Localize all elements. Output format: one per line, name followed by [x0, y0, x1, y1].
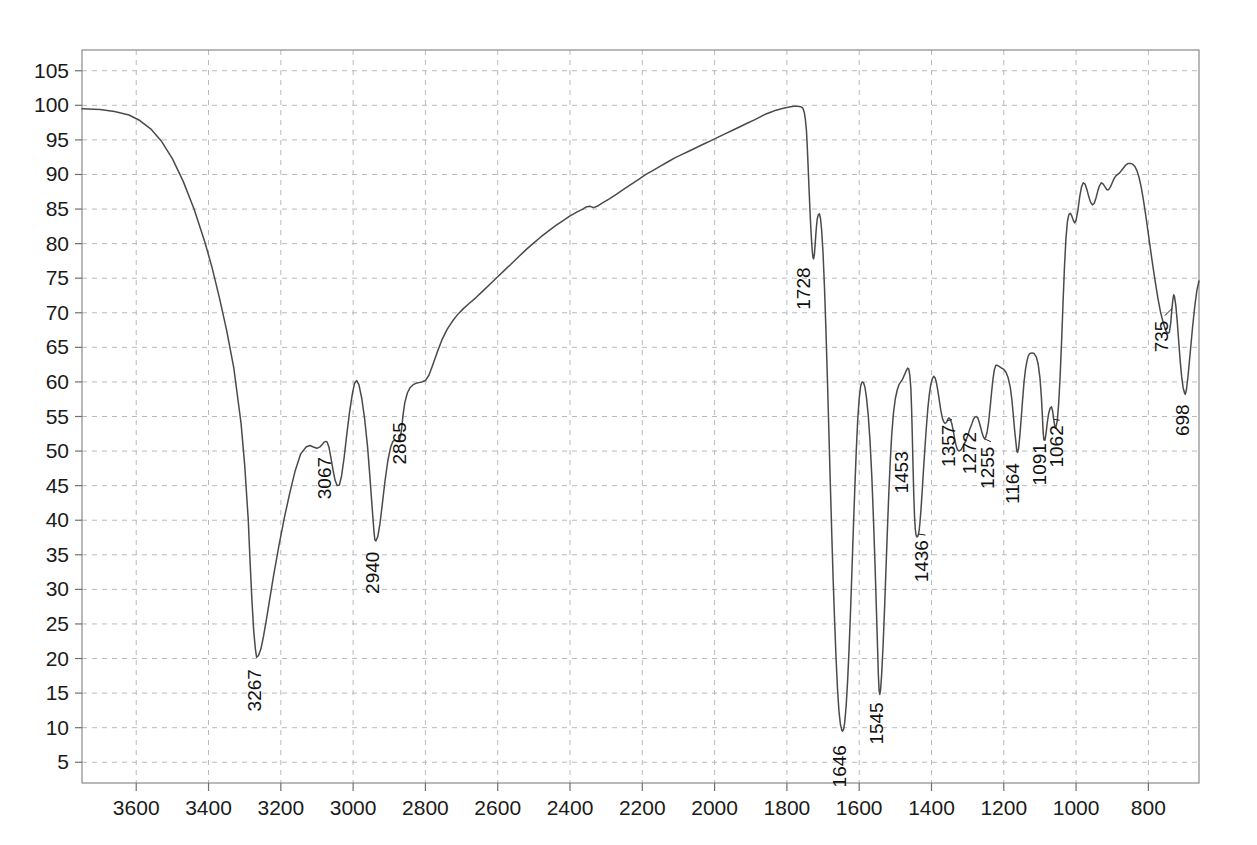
- peak-label-text: 735: [1151, 321, 1172, 353]
- peak-label-text: 698: [1172, 404, 1193, 436]
- x-tick-label: 1600: [836, 796, 883, 819]
- x-tick-label: 3200: [257, 796, 304, 819]
- y-tick-label: 105: [34, 59, 69, 82]
- y-tick-label: 15: [46, 681, 69, 704]
- spectrum-chart-canvas: 5101520253035404550556065707580859095100…: [0, 0, 1257, 845]
- y-tick-label: 50: [46, 439, 69, 462]
- x-tick-label: 800: [1131, 796, 1166, 819]
- peak-label-2865: 2865: [389, 422, 410, 464]
- peak-label-text: 3067: [314, 457, 335, 499]
- y-tick-label: 90: [46, 162, 69, 185]
- x-tick-label: 1400: [908, 796, 955, 819]
- y-tick-label: 35: [46, 543, 69, 566]
- peak-label-text: 3267: [244, 669, 265, 711]
- y-tick-label: 55: [46, 405, 69, 428]
- chart-background: [0, 0, 1257, 845]
- x-tick-label: 3400: [185, 796, 232, 819]
- peak-label-1728: 1728: [793, 267, 814, 309]
- peak-label-698: 698: [1172, 404, 1193, 436]
- peak-label-text: 1357: [938, 425, 959, 467]
- peak-label-3067: 3067: [314, 457, 335, 499]
- peak-label-1255: 1255: [977, 447, 998, 489]
- y-tick-label: 5: [57, 750, 69, 773]
- y-tick-label: 65: [46, 335, 69, 358]
- y-tick-label: 80: [46, 232, 69, 255]
- x-tick-label: 2800: [402, 796, 449, 819]
- y-tick-label: 10: [46, 716, 69, 739]
- peak-label-text: 1062: [1046, 425, 1067, 467]
- y-tick-label: 100: [34, 93, 69, 116]
- x-tick-label: 2600: [474, 796, 521, 819]
- x-tick-label: 1000: [1053, 796, 1100, 819]
- peak-label-3267: 3267: [244, 669, 265, 711]
- peak-label-text: 1255: [977, 447, 998, 489]
- x-tick-label: 2000: [691, 796, 738, 819]
- x-tick-label: 3000: [330, 796, 377, 819]
- y-tick-label: 30: [46, 577, 69, 600]
- peak-label-1062: 1062: [1046, 425, 1067, 467]
- y-tick-label: 20: [46, 647, 69, 670]
- peak-label-1453: 1453: [891, 451, 912, 493]
- peak-label-text: 1453: [891, 451, 912, 493]
- peak-label-1436: 1436: [911, 540, 932, 582]
- ir-spectrum-figure: 5101520253035404550556065707580859095100…: [0, 0, 1257, 845]
- y-tick-label: 95: [46, 128, 69, 151]
- y-tick-label: 75: [46, 266, 69, 289]
- peak-label-1357: 1357: [938, 425, 959, 467]
- y-tick-label: 60: [46, 370, 69, 393]
- x-tick-label: 1800: [764, 796, 811, 819]
- peak-label-735: 735: [1151, 321, 1172, 353]
- peak-label-1545: 1545: [866, 702, 887, 744]
- peak-label-text: 2940: [362, 552, 383, 594]
- peak-label-1164: 1164: [1002, 463, 1023, 504]
- x-tick-label: 2400: [547, 796, 594, 819]
- peak-label-text: 1728: [793, 267, 814, 309]
- peak-label-text: 1436: [911, 540, 932, 582]
- x-tick-label: 3600: [113, 796, 160, 819]
- peak-label-text: 1164: [1002, 463, 1023, 504]
- peak-label-1646: 1646: [829, 745, 850, 787]
- peak-label-text: 1545: [866, 702, 887, 744]
- x-tick-label: 1200: [980, 796, 1027, 819]
- peak-label-2940: 2940: [362, 552, 383, 594]
- x-tick-label: 2200: [619, 796, 666, 819]
- peak-label-text: 2865: [389, 422, 410, 464]
- y-tick-label: 70: [46, 301, 69, 324]
- y-tick-label: 85: [46, 197, 69, 220]
- peak-label-text: 1646: [829, 745, 850, 787]
- y-tick-label: 45: [46, 474, 69, 497]
- y-tick-label: 40: [46, 508, 69, 531]
- y-tick-label: 25: [46, 612, 69, 635]
